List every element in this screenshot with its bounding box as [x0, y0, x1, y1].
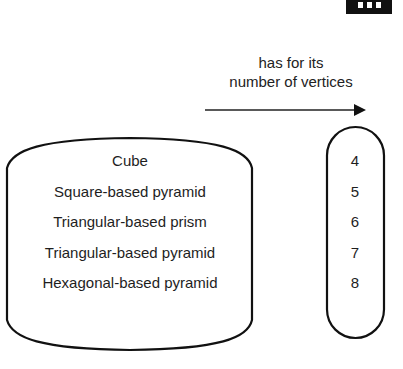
codomain-item: 5 — [326, 177, 384, 208]
codomain-item: 8 — [326, 268, 384, 299]
codomain-list: 4 5 6 7 8 — [326, 146, 384, 299]
domain-item: Triangular-based prism — [6, 207, 254, 238]
codomain-item: 7 — [326, 238, 384, 269]
domain-item: Cube — [6, 146, 254, 177]
codomain-item: 6 — [326, 207, 384, 238]
relation-arrow-icon — [205, 104, 366, 116]
domain-item: Triangular-based pyramid — [6, 238, 254, 269]
domain-list: Cube Square-based pyramid Triangular-bas… — [6, 146, 254, 299]
domain-item: Hexagonal-based pyramid — [6, 268, 254, 299]
codomain-item: 4 — [326, 146, 384, 177]
domain-item: Square-based pyramid — [6, 177, 254, 208]
